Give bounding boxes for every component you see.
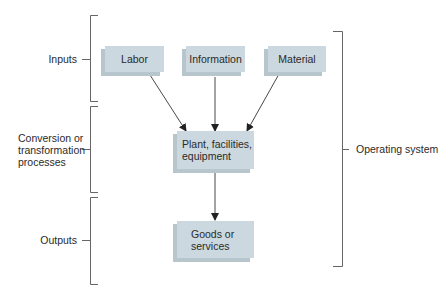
node-labor-label: Labor <box>121 53 148 65</box>
conversion-label-line-2: transformation <box>18 144 85 156</box>
node-information: Information <box>182 46 245 76</box>
node-labor: Labor <box>101 46 164 76</box>
inputs-label: Inputs <box>48 53 77 65</box>
node-goods-label-line-2: services <box>191 240 234 252</box>
operating-system-bracket <box>333 32 349 267</box>
operating-system-label: Operating system <box>356 143 438 155</box>
node-material: Material <box>264 46 326 76</box>
conversion-label-line-3: processes <box>18 156 85 168</box>
node-goods-label-line-1: Goods or <box>191 228 234 240</box>
arrow-labor-to-plant <box>150 75 186 131</box>
node-plant-label-line-1: Plant, facilities, <box>182 138 252 150</box>
node-material-label: Material <box>278 53 315 65</box>
outputs-bracket <box>82 198 98 285</box>
node-information-label: Information <box>189 53 242 65</box>
inputs-bracket <box>82 16 98 102</box>
node-plant-label-line-2: equipment <box>182 150 252 162</box>
arrow-material-to-plant <box>247 74 279 131</box>
operating-system-diagram: Inputs Conversion or transformation proc… <box>0 0 446 298</box>
node-plant: Plant, facilities, equipment <box>173 131 254 173</box>
node-goods: Goods or services <box>173 221 254 262</box>
outputs-label: Outputs <box>40 234 77 246</box>
conversion-label: Conversion or transformation processes <box>18 132 85 168</box>
conversion-label-line-1: Conversion or <box>18 132 85 144</box>
